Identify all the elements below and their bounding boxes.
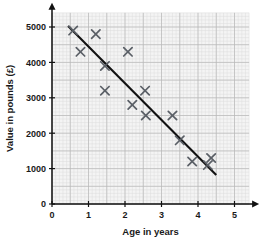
x-axis-title: Age in years: [122, 226, 179, 237]
y-tick-label: 0: [41, 199, 46, 209]
x-axis-arrow-icon: [252, 201, 259, 208]
y-tick-label: 2000: [26, 129, 46, 139]
x-tick-label: 0: [49, 210, 54, 220]
y-tick-label: 3000: [26, 93, 46, 103]
x-tick-label: 3: [159, 210, 164, 220]
y-axis-arrow-icon: [49, 3, 56, 10]
y-tick-label: 1000: [26, 164, 46, 174]
scatter-chart: 012345010002000300040005000Age in yearsV…: [0, 0, 260, 241]
x-tick-label: 5: [232, 210, 237, 220]
x-tick-label: 4: [195, 210, 200, 220]
x-tick-label: 1: [86, 210, 91, 220]
chart-canvas: 012345010002000300040005000Age in yearsV…: [0, 0, 260, 241]
y-tick-label: 4000: [26, 58, 46, 68]
y-tick-label: 5000: [26, 22, 46, 32]
y-axis-title: Value in pounds (£): [4, 65, 15, 152]
x-tick-label: 2: [122, 210, 127, 220]
